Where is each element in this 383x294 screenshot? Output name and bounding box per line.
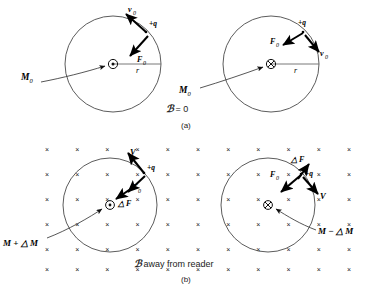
velocity-label: V — [320, 191, 327, 201]
field-mark-icon: × — [347, 196, 351, 203]
field-mark-icon: × — [166, 146, 170, 153]
field-mark-icon: × — [45, 146, 49, 153]
field-mark-icon: × — [166, 246, 170, 253]
field-mark-icon: × — [105, 221, 109, 228]
out-of-page-dot-icon — [109, 204, 112, 207]
field-mark-icon: × — [75, 146, 79, 153]
force-sub: 0 — [276, 42, 279, 48]
force-sub: 0 — [138, 188, 141, 194]
moment-label: M — [20, 72, 30, 82]
charge-label: +q — [147, 163, 155, 172]
field-value-a: = 0 — [176, 104, 189, 114]
field-mark-icon: × — [317, 146, 321, 153]
force-label: F — [136, 55, 143, 64]
script-b-glyph: ℬ — [134, 258, 141, 269]
moment-label: M + △ M — [2, 238, 39, 248]
field-mark-icon: × — [256, 171, 260, 178]
velocity-vector — [305, 35, 319, 52]
field-mark-icon: × — [226, 266, 230, 273]
field-label-b: ℬ away from reader — [134, 258, 214, 269]
field-mark-icon: × — [166, 171, 170, 178]
charge-label: +q — [305, 169, 313, 178]
field-mark-icon: × — [75, 196, 79, 203]
field-mark-icon: × — [45, 266, 49, 273]
velocity-label: v — [320, 49, 324, 58]
velocity-sub: 0 — [133, 10, 136, 16]
field-mark-icon: × — [196, 146, 200, 153]
velocity-sub: 0 — [325, 54, 328, 60]
velocity-vector — [303, 177, 318, 194]
velocity-vector — [126, 14, 146, 32]
velocity-label: v — [128, 5, 132, 14]
field-mark-icon: × — [347, 146, 351, 153]
moment-sub: 0 — [30, 77, 34, 84]
force-label: F — [131, 183, 138, 192]
panel-a-caption: (a) — [181, 121, 191, 130]
field-mark-icon: × — [287, 266, 291, 273]
force-vector — [283, 33, 303, 45]
charge-label: +q — [298, 18, 306, 27]
field-mark-icon: × — [45, 221, 49, 228]
field-mark-icon: × — [136, 221, 140, 228]
field-mark-icon: × — [136, 246, 140, 253]
circle-b-left: M + △ M +q V F 0 △ F — [2, 147, 157, 252]
field-mark-icon: × — [75, 246, 79, 253]
force-vector — [281, 175, 301, 192]
charge-label: +q — [149, 19, 157, 28]
field-mark-icon: × — [256, 246, 260, 253]
field-mark-icon: × — [105, 146, 109, 153]
field-mark-icon: × — [196, 246, 200, 253]
field-mark-icon: × — [226, 196, 230, 203]
field-mark-icon: × — [226, 171, 230, 178]
field-label-a: ℬ = 0 — [166, 103, 188, 114]
field-mark-icon: × — [105, 266, 109, 273]
field-mark-icon: × — [166, 196, 170, 203]
field-mark-icon: × — [196, 196, 200, 203]
field-mark-icon: × — [287, 221, 291, 228]
moment-sub: 0 — [188, 90, 192, 97]
moment-arrow — [41, 66, 105, 82]
delta-force-label: △ F — [290, 155, 305, 164]
physics-figure: r M 0 +q v 0 F 0 r — [0, 0, 383, 294]
delta-force-label: △ F — [117, 199, 132, 208]
field-mark-icon: × — [287, 196, 291, 203]
field-mark-icon: × — [136, 196, 140, 203]
field-mark-icon: × — [105, 171, 109, 178]
field-mark-icon: × — [136, 146, 140, 153]
delta-force-vector — [116, 188, 132, 199]
circle-a-left: r M 0 +q v 0 F 0 — [20, 5, 161, 112]
circle-a-right: r M 0 +q F 0 v 0 — [178, 16, 328, 112]
force-label: F — [269, 170, 276, 179]
field-mark-icon: × — [226, 246, 230, 253]
field-mark-icon: × — [256, 146, 260, 153]
moment-arrow — [200, 67, 263, 88]
field-mark-icon: × — [45, 171, 49, 178]
field-mark-icon: × — [45, 246, 49, 253]
magnetic-field-grid: ××××××××××××××××××××××××××××××××××××××××… — [45, 146, 351, 273]
field-mark-icon: × — [136, 171, 140, 178]
field-mark-icon: × — [347, 266, 351, 273]
field-mark-icon: × — [226, 146, 230, 153]
field-value-b: away from reader — [144, 259, 214, 269]
field-mark-icon: × — [75, 171, 79, 178]
moment-label: M − △ M — [317, 226, 354, 236]
field-mark-icon: × — [347, 171, 351, 178]
field-mark-icon: × — [317, 171, 321, 178]
radius-label: r — [294, 66, 298, 75]
panel-b: ××××××××××××××××××××××××××××××××××××××××… — [2, 146, 354, 273]
circle-b-right: M − △ M +q △ F F 0 V — [221, 155, 354, 252]
force-sub: 0 — [143, 60, 146, 66]
field-mark-icon: × — [256, 196, 260, 203]
force-vector — [130, 36, 148, 56]
field-mark-icon: × — [317, 266, 321, 273]
field-mark-icon: × — [196, 171, 200, 178]
out-of-page-dot-icon — [112, 63, 115, 66]
field-mark-icon: × — [196, 221, 200, 228]
panel-a: r M 0 +q v 0 F 0 r — [20, 5, 328, 112]
moment-label: M — [178, 85, 188, 95]
force-sub: 0 — [276, 175, 279, 181]
field-mark-icon: × — [287, 146, 291, 153]
field-mark-icon: × — [256, 221, 260, 228]
radius-label: r — [136, 66, 140, 75]
field-mark-icon: × — [317, 246, 321, 253]
